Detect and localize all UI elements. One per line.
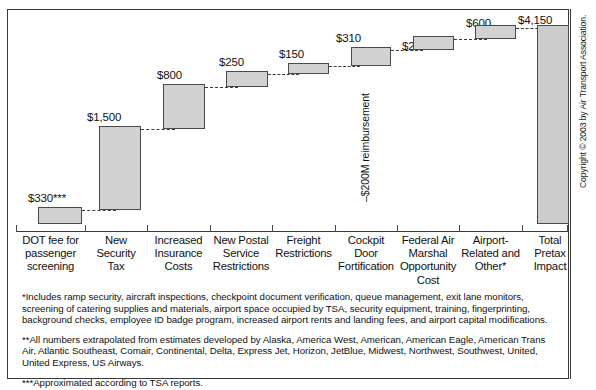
bar-cockpit-door [351,47,391,66]
category-line: DOT fee for [16,234,85,247]
connector-5-6 [391,50,423,51]
category-line: Cockpit [335,234,397,247]
axis-tick-7 [459,225,460,232]
waterfall-chart: $330*** $1,500 $800 $250 $150 $310 $210 … [16,12,568,224]
axis-tick-5 [335,225,336,232]
category-line: Related and [459,247,522,260]
category-line: Service [210,247,272,260]
exhibit-page: $330*** $1,500 $800 $250 $150 $310 $210 … [0,0,596,390]
category-axis [16,231,568,232]
axis-tick-6 [397,225,398,232]
category-line: Restrictions [210,260,272,273]
category-label-air-marshal: Federal Air Marshal Opportunity Cost [397,234,459,287]
bar-new-security-tax [99,126,141,210]
connector-4-5 [329,66,360,67]
category-label-insurance-costs: Increased Insurance Costs [147,234,210,274]
bar-postal-restrictions [226,71,268,87]
axis-tick-0 [16,225,17,232]
category-line: screening [16,260,85,273]
bar-value-label-2: $800 [157,69,182,81]
bar-value-label-1: $1,500 [87,111,121,123]
axis-tick-8 [522,225,523,232]
category-label-new-security-tax: New Security Tax [85,234,147,274]
bar-value-label-3: $250 [219,56,244,68]
bar-total-pretax-impact [537,25,569,224]
axis-tick-4 [272,225,273,232]
bar-value-label-0: $330*** [28,192,66,204]
exhibit-frame: $330*** $1,500 $800 $250 $150 $310 $210 … [7,9,569,379]
category-line: passenger [16,247,85,260]
connector-0-1 [82,210,116,211]
category-label-freight-restrictions: Freight Restrictions [272,234,335,260]
category-line: Airport- [459,234,522,247]
connector-3-4 [268,74,299,75]
axis-tick-1 [85,225,86,232]
bar-dot-fee [38,207,82,224]
bar-freight-restrictions [288,63,329,74]
category-line: Security [85,247,147,260]
connector-2-3 [205,87,238,88]
category-line: Costs [147,260,210,273]
category-line: Freight [272,234,335,247]
category-line: Door [335,247,397,260]
connector-1-2 [141,129,175,130]
category-line: Cost [397,274,459,287]
category-line: Increased [147,234,210,247]
footnote-asterisk-one: *Includes ramp security, aircraft inspec… [22,291,556,326]
bar-airport-related-other [475,25,516,39]
category-line: Federal Air [397,234,459,247]
category-line: Insurance [147,247,210,260]
bar-insurance-costs [163,84,205,129]
category-line: New Postal [210,234,272,247]
category-line: New [85,234,147,247]
cockpit-reimbursement-annotation: –$200M reimbursement [359,93,371,202]
category-label-dot-fee: DOT fee for passenger screening [16,234,85,274]
footnotes-block: *Includes ramp security, aircraft inspec… [22,291,556,388]
axis-tick-2 [147,225,148,232]
category-label-airport-related-other: Airport- Related and Other* [459,234,522,274]
bar-value-label-4: $150 [279,48,304,60]
category-line: Tax [85,260,147,273]
category-line: Fortification [335,260,397,273]
bar-value-label-5: $310 [336,32,361,44]
footnote-asterisk-three: ***Approximated according to TSA reports… [22,377,556,389]
category-label-postal-restrictions: New Postal Service Restrictions [210,234,272,274]
copyright-notice: Copyright © 2003 by Air Transport Associ… [578,15,588,188]
bar-air-marshal [413,36,454,50]
category-line: Opportunity [397,260,459,273]
connector-6-7 [454,39,487,40]
copyright-gutter-divider [570,9,571,379]
category-label-row: DOT fee for passenger screening New Secu… [16,234,568,282]
category-line: Marshal [397,247,459,260]
axis-tick-3 [210,225,211,232]
category-label-cockpit-door: Cockpit Door Fortification [335,234,397,274]
footnote-asterisk-two: **All numbers extrapolated from estimate… [22,334,556,369]
category-line: Restrictions [272,247,335,260]
axis-tick-9 [567,225,568,232]
category-line: Other* [459,260,522,273]
